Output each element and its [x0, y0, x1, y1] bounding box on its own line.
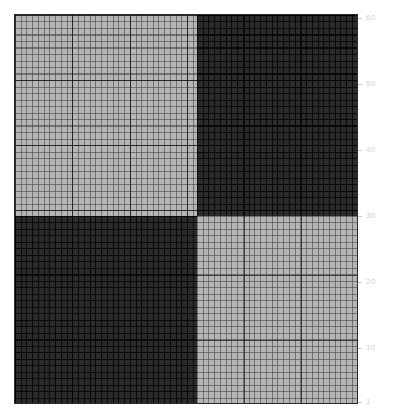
heatmap-figure: 60 50 40 30 20 10 1 — [0, 0, 398, 417]
block-bottom-right — [197, 216, 357, 403]
y-tick: 30 — [358, 210, 375, 222]
y-tick-mark — [358, 348, 362, 349]
y-tick: 60 — [358, 12, 375, 24]
block-top-left — [15, 15, 197, 216]
y-tick: 40 — [358, 144, 375, 156]
y-tick-mark — [358, 216, 362, 217]
y-tick-label: 50 — [366, 80, 375, 88]
y-tick: 20 — [358, 276, 375, 288]
y-tick-mark — [358, 18, 362, 19]
y-tick-label: 60 — [366, 14, 375, 22]
y-tick: 50 — [358, 78, 375, 90]
plot-area[interactable] — [14, 14, 358, 404]
minor-grid-bottom-right — [197, 216, 357, 403]
minor-grid-top-right — [197, 15, 357, 216]
y-tick: 1 — [358, 396, 371, 408]
block-bottom-left — [15, 216, 197, 403]
minor-grid-top-left — [15, 15, 197, 216]
y-tick-label: 10 — [366, 344, 375, 352]
y-axis-right: 60 50 40 30 20 10 1 — [358, 14, 398, 406]
y-tick-label: 20 — [366, 278, 375, 286]
y-tick-label: 1 — [366, 398, 371, 406]
y-tick-label: 40 — [366, 146, 375, 154]
y-tick-mark — [358, 84, 362, 85]
minor-grid-bottom-left — [15, 216, 197, 403]
y-tick-label: 30 — [366, 212, 375, 220]
y-tick-mark — [358, 402, 362, 403]
block-top-right — [197, 15, 357, 216]
y-tick-mark — [358, 150, 362, 151]
y-tick-mark — [358, 282, 362, 283]
y-tick: 10 — [358, 342, 375, 354]
